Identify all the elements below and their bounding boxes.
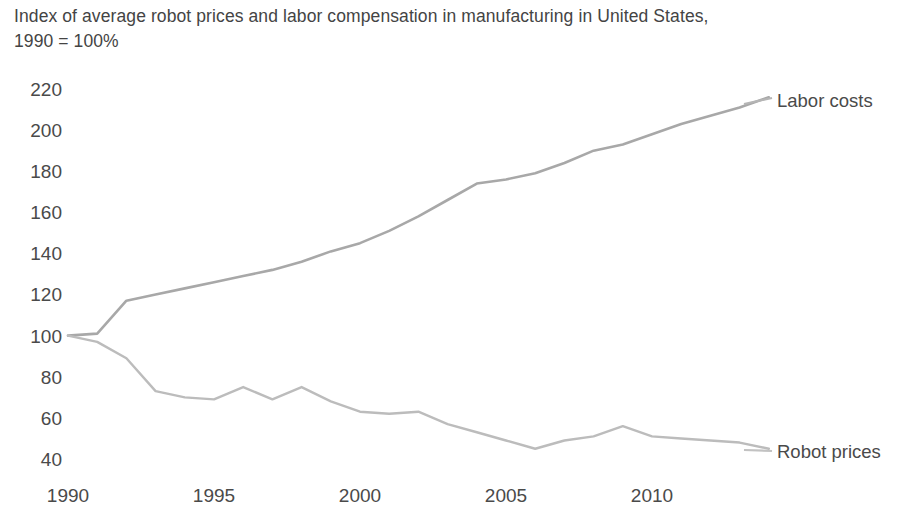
series-label-leader-robot-prices [744, 450, 772, 451]
series-label-labor-costs: Labor costs [777, 92, 873, 111]
chart-figure: Index of average robot prices and labor … [0, 0, 909, 531]
series-label-leader-labor-costs [744, 98, 772, 104]
series-line-labor-costs [68, 97, 769, 335]
plot-area [0, 0, 909, 531]
series-label-robot-prices: Robot prices [777, 443, 881, 462]
series-line-robot-prices [68, 336, 769, 449]
